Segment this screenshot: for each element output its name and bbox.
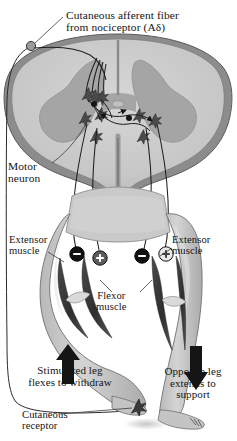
motor-neuron-label: Motor neuron	[8, 160, 40, 184]
right-inhibitory-glyph	[138, 255, 146, 257]
flexor-leader-right	[140, 280, 152, 292]
synaptic-bouton-1	[91, 101, 97, 107]
nociceptor-cell-body	[26, 41, 35, 50]
synaptic-bouton-2	[126, 115, 132, 121]
afferent-fiber-label: Cutaneous afferent fiber from nociceptor…	[66, 9, 179, 33]
pelvis	[66, 187, 170, 242]
leg-left-flexed	[40, 214, 168, 430]
extensor-muscle-right-label: Extensor muscle	[172, 234, 210, 256]
central-canal	[112, 101, 124, 107]
reflex-diagram: Cutaneous afferent fiber from nociceptor…	[0, 0, 237, 441]
afferent-label-leader	[35, 17, 63, 43]
flexor-muscle-label: Flexor muscle	[96, 290, 127, 312]
opposite-leg-label: Opposite leg extends to support	[152, 366, 234, 401]
left-inhibitory-glyph	[73, 253, 81, 255]
stimulated-leg-label: Stimulated leg flexes to withdraw	[8, 365, 132, 388]
extensor-muscle-left-label: Extensor muscle	[9, 234, 47, 256]
left-excitatory-glyph	[99, 254, 101, 262]
cutaneous-receptor-label: Cutaneous receptor	[22, 409, 68, 431]
